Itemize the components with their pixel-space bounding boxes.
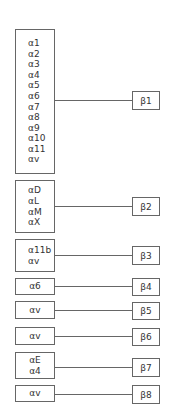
alpha-item: α2: [28, 49, 40, 60]
beta-label: β6: [140, 332, 151, 342]
connector-line-8: [55, 394, 132, 395]
alpha-item: α11b: [28, 245, 51, 256]
connector-line-4: [55, 286, 132, 287]
beta-label: β2: [140, 202, 151, 212]
alpha-item: α4: [29, 366, 41, 377]
alpha-box-4: α6: [15, 278, 55, 295]
alpha-item: αv: [29, 388, 40, 399]
alpha-item: α4: [28, 70, 40, 81]
beta-box-2: β2: [132, 197, 160, 216]
connector-line-7: [55, 367, 132, 368]
alpha-box-2: αD αL αM αX: [15, 180, 55, 233]
connector-line-3: [55, 255, 132, 256]
alpha-box-7: αE α4: [15, 352, 55, 379]
connector-line-5: [55, 310, 132, 311]
alpha-item: αv: [28, 256, 39, 267]
connector-line-6: [55, 336, 132, 337]
beta-label: β4: [140, 282, 151, 292]
beta-box-6: β6: [132, 328, 160, 346]
beta-box-5: β5: [132, 302, 160, 320]
alpha-item: αE: [29, 355, 41, 366]
alpha-box-5: αv: [15, 301, 55, 319]
alpha-item: αM: [28, 207, 42, 218]
alpha-item: αv: [29, 305, 40, 316]
connector-line-1: [55, 100, 132, 101]
beta-box-8: β8: [132, 385, 160, 404]
connector-line-2: [55, 206, 132, 207]
alpha-item: α5: [28, 80, 40, 91]
alpha-box-1: α1 α2 α3 α4 α5 α6 α7 α8 α9 α10 α11 αv: [15, 29, 55, 174]
alpha-item: α3: [28, 59, 40, 70]
alpha-item: αD: [28, 185, 41, 196]
alpha-item: α8: [28, 112, 40, 123]
alpha-box-6: αv: [15, 327, 55, 345]
alpha-item: α6: [28, 91, 40, 102]
alpha-box-8: αv: [15, 385, 55, 402]
alpha-item: α9: [28, 123, 40, 134]
alpha-item: αX: [28, 217, 40, 228]
beta-box-3: β3: [132, 246, 160, 265]
beta-box-4: β4: [132, 278, 160, 296]
beta-label: β3: [140, 251, 151, 261]
alpha-item: α7: [28, 102, 40, 113]
beta-label: β7: [140, 363, 151, 373]
alpha-item: αv: [29, 331, 40, 342]
alpha-item: α6: [29, 281, 41, 292]
alpha-item: α10: [28, 133, 45, 144]
alpha-item: αv: [28, 154, 39, 165]
beta-label: β5: [140, 306, 151, 316]
beta-box-1: β1: [132, 91, 160, 110]
alpha-item: αL: [28, 196, 39, 207]
beta-label: β1: [140, 96, 151, 106]
alpha-item: α11: [28, 144, 45, 155]
beta-label: β8: [140, 390, 151, 400]
alpha-box-3: α11b αv: [15, 239, 55, 272]
alpha-item: α1: [28, 38, 40, 49]
beta-box-7: β7: [132, 358, 160, 377]
